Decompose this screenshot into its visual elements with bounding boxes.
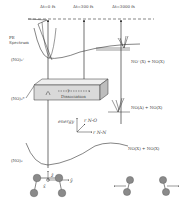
cation-potential-inner-2 [50, 28, 56, 58]
atom-o-right [58, 189, 66, 197]
axis-rnn-label: r N-N [93, 130, 107, 135]
coordinate-axes-inset: energy r N-O r N-N [58, 118, 107, 135]
z-axis-label: ẑ [50, 173, 54, 178]
excited-state-pointer [26, 86, 34, 98]
axis-energy-label: energy [58, 119, 75, 125]
ground-state-label: (NO)₂ [11, 158, 23, 163]
time-delay-label-0: Δt=0 fs [40, 4, 55, 9]
dissociation-box: ? Dissociation [34, 79, 108, 100]
no-fragment-left [114, 176, 134, 195]
fragment-right-atom-o [162, 188, 169, 195]
time-delay-label-1: Δt=300 fs [73, 4, 93, 9]
time-delay-label-2: Δt=3000 fs [112, 4, 135, 9]
cation-state-label: (NO)₂⁺ [11, 57, 25, 62]
ground-limit-label: NO(X) + NO(X) [128, 146, 160, 151]
ground-potential-curve [26, 143, 128, 165]
atom-n-right [55, 174, 63, 182]
x-axis-label: x̂ [43, 184, 46, 189]
excited-limit-label: NO(A) + NO(X) [131, 105, 163, 110]
pe-spectrum-trace [28, 19, 52, 60]
fragment-right-atom-n [159, 176, 166, 183]
ion-limit-well [118, 36, 128, 48]
box-dissociation-label: Dissociation [61, 94, 86, 99]
y-axis-label: ŷ [69, 178, 73, 184]
no-fragment-right [159, 176, 179, 195]
pe-spectrum-label-line2: Spectrum [9, 40, 29, 45]
dimer-molecule: ẑ ŷ x̂ [30, 171, 73, 197]
fragment-left-atom-n [126, 176, 133, 183]
atom-o-left [30, 189, 38, 197]
ion-limit-label: NO⁺(X) + NO(X) [131, 59, 165, 64]
box-top [34, 79, 108, 85]
excited-state-label: (NO)₂* [11, 96, 25, 101]
atom-n-left [33, 174, 41, 182]
excited-limit-well [112, 98, 124, 112]
fragment-left-atom-o [123, 188, 130, 195]
cation-potential-curve [34, 28, 140, 58]
axis-rno-label: r N-O [84, 118, 97, 123]
axis-rno [77, 124, 85, 132]
no-dimer-dissociation-diagram: Δt=0 fs Δt=300 fs Δt=3000 fs PE Spectrum… [0, 0, 192, 204]
